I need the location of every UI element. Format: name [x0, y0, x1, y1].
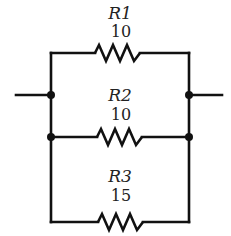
r2-name-label: R2: [107, 85, 132, 105]
right-junction-node: [185, 91, 193, 99]
right-r2-junction-node: [185, 133, 193, 141]
r3-value-label: 15: [111, 186, 131, 205]
branch-r1: [51, 45, 189, 61]
branch-r2: [51, 129, 189, 145]
r1-name-label: R1: [107, 3, 132, 23]
r2-value-label: 10: [111, 105, 131, 124]
left-r2-junction-node: [47, 133, 55, 141]
branch-r3: [51, 214, 189, 230]
resistor-r1-icon: [95, 45, 140, 61]
r1-value-label: 10: [111, 22, 131, 41]
r3-name-label: R3: [107, 166, 132, 186]
circuit-diagram: R1 10 R2 10 R3 15: [0, 0, 231, 236]
resistor-r3-icon: [98, 214, 143, 230]
resistor-r2-icon: [97, 129, 142, 145]
left-junction-node: [47, 91, 55, 99]
